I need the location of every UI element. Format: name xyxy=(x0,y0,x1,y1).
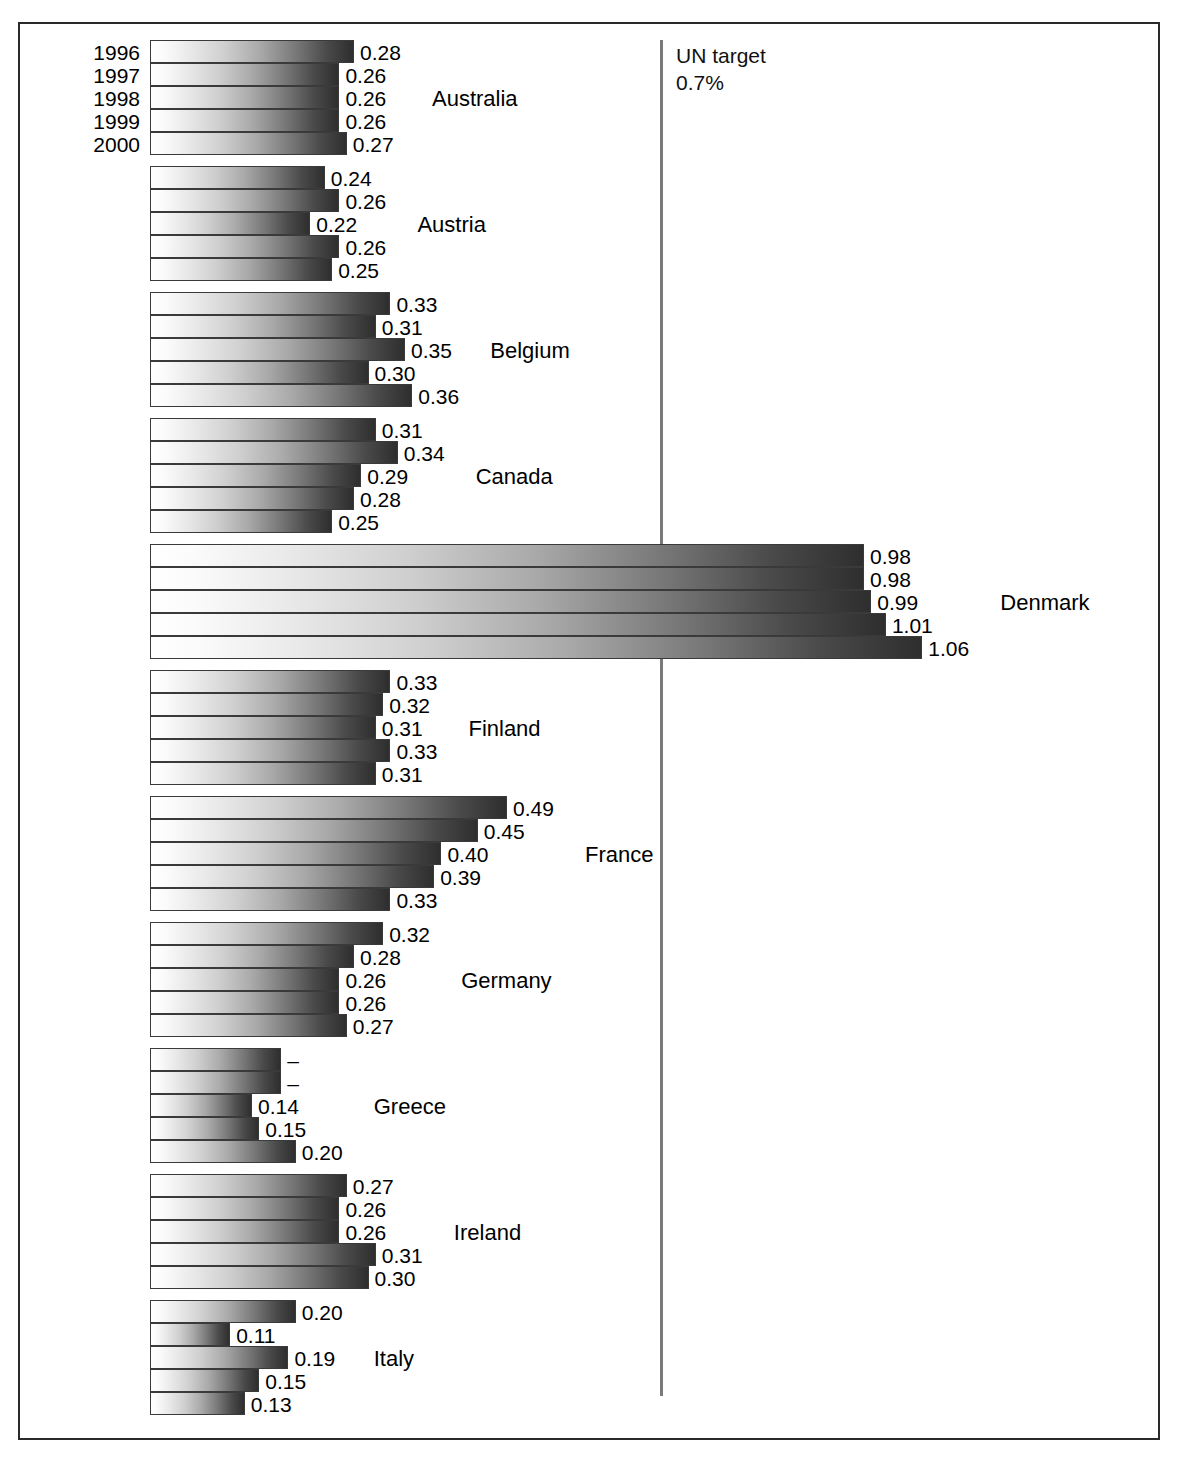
bar xyxy=(150,1243,376,1266)
bar xyxy=(150,464,361,487)
bar-value-label: 0.27 xyxy=(353,134,394,155)
bar-value-label: 0.28 xyxy=(360,947,401,968)
bar xyxy=(150,1323,230,1346)
bar xyxy=(150,418,376,441)
bar xyxy=(150,441,398,464)
bar-value-label: 0.40 xyxy=(447,844,488,865)
bar-value-label: 0.39 xyxy=(440,867,481,888)
bar xyxy=(150,819,478,842)
bar-value-label: 0.33 xyxy=(396,890,437,911)
bar-value-label: 0.26 xyxy=(345,237,386,258)
un-target-reference-line xyxy=(660,40,663,1396)
bar-value-label: 0.26 xyxy=(345,191,386,212)
bar-value-label: 0.30 xyxy=(375,363,416,384)
bar-value-label: – xyxy=(287,1073,299,1094)
bar-value-label: 0.31 xyxy=(382,718,423,739)
bar xyxy=(150,1048,281,1071)
bar xyxy=(150,1220,339,1243)
bar xyxy=(150,384,412,407)
bar-value-label: 0.26 xyxy=(345,65,386,86)
bar xyxy=(150,567,864,590)
bar xyxy=(150,109,339,132)
bar-value-label: 0.28 xyxy=(360,42,401,63)
chart-page: UN target 0.7%0.2819960.2619970.2619980.… xyxy=(0,0,1184,1458)
bar-value-label: 0.11 xyxy=(236,1325,275,1346)
bar xyxy=(150,1266,369,1289)
country-label: Greece xyxy=(374,1096,446,1118)
bar-value-label: 0.25 xyxy=(338,512,379,533)
bar-value-label: 0.28 xyxy=(360,489,401,510)
bar xyxy=(150,189,339,212)
bar xyxy=(150,922,383,945)
un-target-label: UN target 0.7% xyxy=(676,42,766,96)
bar xyxy=(150,544,864,567)
bar xyxy=(150,315,376,338)
bar xyxy=(150,487,354,510)
bar-value-label: 0.31 xyxy=(382,1245,423,1266)
bar xyxy=(150,945,354,968)
bar xyxy=(150,590,871,613)
bar-value-label: 0.15 xyxy=(265,1371,306,1392)
bar-value-label: 0.45 xyxy=(484,821,525,842)
bar xyxy=(150,842,441,865)
bar-value-label: 0.33 xyxy=(396,294,437,315)
bar xyxy=(150,40,354,63)
bar xyxy=(150,235,339,258)
bar-value-label: 0.34 xyxy=(404,443,445,464)
bar-value-label: 0.31 xyxy=(382,420,423,441)
country-label: Australia xyxy=(432,88,518,110)
bar xyxy=(150,1369,259,1392)
bar-value-label: 0.98 xyxy=(870,546,911,567)
bar xyxy=(150,1300,296,1323)
bar xyxy=(150,86,339,109)
bar xyxy=(150,796,507,819)
year-axis-label: 1999 xyxy=(20,111,140,132)
bar-value-label: 0.29 xyxy=(367,466,408,487)
year-axis-label: 1996 xyxy=(20,42,140,63)
bar-value-label: 0.26 xyxy=(345,1222,386,1243)
bar-value-label: 0.20 xyxy=(302,1142,343,1163)
bar xyxy=(150,1197,339,1220)
year-axis-label: 2000 xyxy=(20,134,140,155)
bar-value-label: 0.25 xyxy=(338,260,379,281)
bar xyxy=(150,132,347,155)
bar xyxy=(150,338,405,361)
bar-value-label: 0.27 xyxy=(353,1016,394,1037)
bar-value-label: 0.98 xyxy=(870,569,911,590)
bar-value-label: 0.26 xyxy=(345,1199,386,1220)
bar-value-label: 0.27 xyxy=(353,1176,394,1197)
bar-value-label: 0.35 xyxy=(411,340,452,361)
bar xyxy=(150,166,325,189)
bar xyxy=(150,888,390,911)
bar-value-label: 0.99 xyxy=(877,592,918,613)
bar-value-label: 0.26 xyxy=(345,111,386,132)
bar xyxy=(150,361,369,384)
bar xyxy=(150,1071,281,1094)
bar-value-label: 0.19 xyxy=(294,1348,335,1369)
country-label: Germany xyxy=(461,970,551,992)
bar-value-label: 0.31 xyxy=(382,764,423,785)
chart-plot-area: UN target 0.7%0.2819960.2619970.2619980.… xyxy=(0,0,1184,1458)
bar xyxy=(150,1094,252,1117)
country-label: Denmark xyxy=(1000,592,1089,614)
bar xyxy=(150,510,332,533)
country-label: France xyxy=(585,844,653,866)
bar-value-label: 0.33 xyxy=(396,672,437,693)
bar xyxy=(150,1346,288,1369)
bar xyxy=(150,762,376,785)
bar-value-label: 0.14 xyxy=(258,1096,299,1117)
country-label: Finland xyxy=(468,718,540,740)
bar-value-label: 0.15 xyxy=(265,1119,306,1140)
bar-value-label: 0.26 xyxy=(345,993,386,1014)
country-label: Austria xyxy=(417,214,485,236)
bar-value-label: 0.20 xyxy=(302,1302,343,1323)
bar xyxy=(150,670,390,693)
bar xyxy=(150,716,376,739)
bar xyxy=(150,1140,296,1163)
bar xyxy=(150,258,332,281)
bar-value-label: 0.31 xyxy=(382,317,423,338)
bar-value-label: 0.33 xyxy=(396,741,437,762)
year-axis-label: 1997 xyxy=(20,65,140,86)
bar xyxy=(150,1174,347,1197)
bar xyxy=(150,968,339,991)
